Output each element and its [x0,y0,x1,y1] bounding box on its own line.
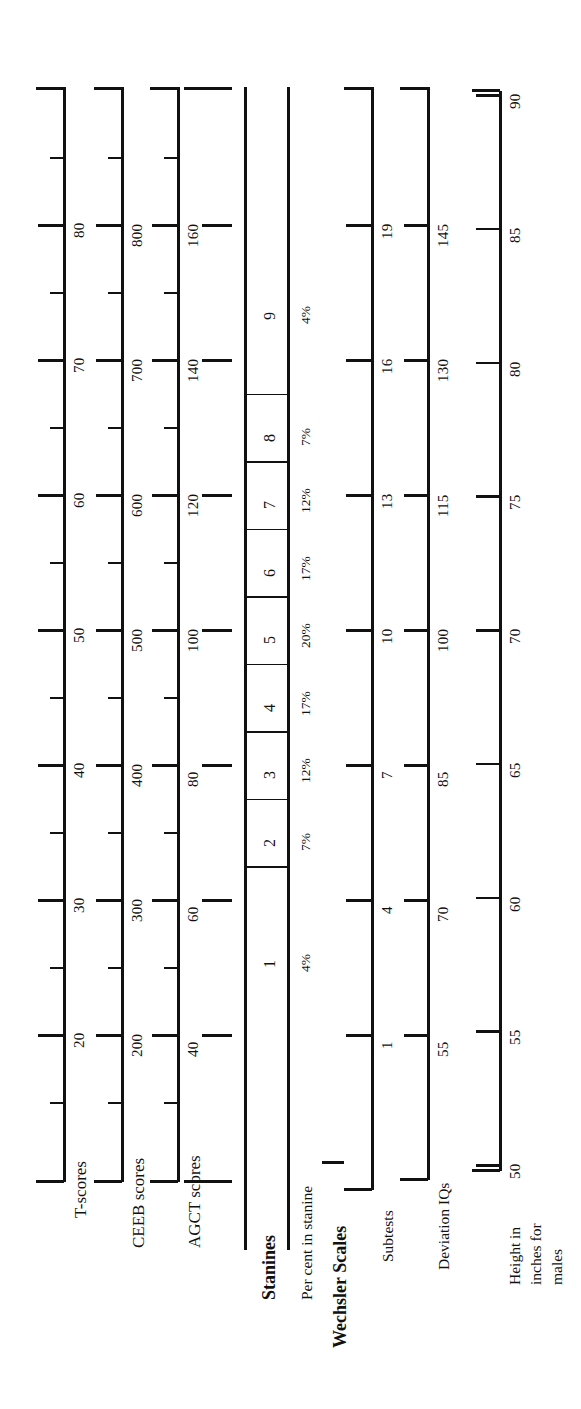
agct-scores-tick-label: 160 [185,224,202,247]
subtests-tick-label: 19 [379,224,396,239]
t-scores-axis-line [63,87,66,1182]
scale-label-t-scores: T-scores [71,1161,91,1218]
agct-scores-bottom-cap [150,1180,178,1183]
ceeb-scores-tick-major [96,224,122,227]
t-scores-tick-label: 70 [71,358,88,373]
height-tick-major [476,94,500,97]
ceeb-scores-tick-major [96,1034,122,1037]
agct-scores-axis-line [177,87,180,1182]
connector-tick [202,629,232,632]
deviation-iqs-tick-major [404,1034,428,1037]
ceeb-scores-tick-minor [108,1102,122,1104]
stanine-number: 4 [261,704,279,712]
connector-tick [202,359,232,362]
subtests-tick-label: 7 [379,771,396,779]
percent-in-stanine-label: 20% [298,623,314,648]
subtests-axis-line [371,87,374,1190]
subtests-tick-label: 1 [379,1041,396,1049]
subtests-tick-label: 10 [379,629,396,644]
t-scores-tick-minor [50,562,64,564]
subtests-tick-label: 13 [379,494,396,509]
stanine-divider [245,799,288,801]
height-tick-major [476,495,500,498]
scale-label-percent-in-stanine: Per cent in stanine [298,1186,316,1300]
height-tick-major [476,897,500,900]
agct-scores-tick-major [152,224,178,227]
agct-scores-tick-label: 140 [185,359,202,382]
ceeb-scores-bottom-cap [94,1180,122,1183]
t-scores-tick-label: 40 [71,763,88,778]
deviation-iqs-tick-label: 115 [435,494,452,517]
ceeb-scores-tick-minor [108,292,122,294]
ceeb-scores-tick-minor [108,562,122,564]
stanine-divider [245,529,288,531]
connector-bottom-cap [184,1180,232,1183]
agct-scores-top-cap [150,87,178,90]
agct-scores-tick-label: 80 [185,772,202,787]
ceeb-scores-tick-minor [108,157,122,159]
agct-scores-tick-major [152,1034,178,1037]
t-scores-tick-minor [50,967,64,969]
height-tick-label: 85 [507,227,524,242]
height-tick-label: 80 [507,361,524,376]
t-scores-tick-major [38,899,64,902]
connector-tick [202,1034,232,1037]
height-tick-label: 70 [507,629,524,644]
figure-canvas: 20304050607080T-scores200300400500600700… [0,0,581,1409]
percent-in-stanine-label: 12% [298,488,314,513]
deviation-iqs-tick-major [404,494,428,497]
stanine-divider [245,596,288,598]
agct-scores-tick-major [152,899,178,902]
agct-scores-tick-minor [164,697,178,699]
deviation-iqs-tick-label: 100 [435,629,452,652]
subtests-tick-major [346,629,372,632]
deviation-iqs-tick-major [404,359,428,362]
height-tick-label: 60 [507,896,524,911]
subtests-tick-major [346,494,372,497]
agct-scores-tick-minor [164,157,178,159]
stanine-divider [245,866,288,868]
agct-scores-tick-minor [164,427,178,429]
ceeb-scores-tick-label: 500 [129,629,146,652]
ceeb-scores-tick-minor [108,697,122,699]
connector-tick [202,899,232,902]
deviation-iqs-tick-label: 70 [435,907,452,922]
t-scores-tick-major [38,764,64,767]
t-scores-tick-minor [50,1102,64,1104]
subtests-tick-major [346,764,372,767]
t-scores-bottom-cap [36,1180,64,1183]
connector-top-cap [184,87,232,90]
stanine-number: 3 [261,771,279,779]
height-tick-label: 90 [507,94,524,109]
agct-scores-tick-label: 40 [185,1042,202,1057]
agct-scores-tick-label: 120 [185,494,202,517]
subtests-bottom-cap [344,1188,372,1191]
agct-scores-tick-minor [164,967,178,969]
percent-in-stanine-label: 7% [298,428,314,446]
scale-label-subtests: Subtests [379,1210,397,1262]
ceeb-scores-tick-minor [108,832,122,834]
deviation-iqs-top-cap [400,87,428,90]
wechsler-group-rule [322,1161,344,1164]
t-scores-tick-minor [50,427,64,429]
t-scores-tick-label: 20 [71,1033,88,1048]
agct-scores-tick-major [152,764,178,767]
t-scores-tick-major [38,224,64,227]
agct-scores-tick-major [152,629,178,632]
t-scores-tick-minor [50,292,64,294]
deviation-iqs-bottom-cap [400,1178,428,1181]
scale-label-stanines: Stanines [259,1235,280,1300]
subtests-tick-major [346,1034,372,1037]
t-scores-tick-label: 30 [71,898,88,913]
agct-scores-tick-minor [164,562,178,564]
t-scores-tick-major [38,494,64,497]
ceeb-scores-tick-label: 700 [129,359,146,382]
agct-scores-tick-label: 60 [185,907,202,922]
t-scores-tick-major [38,629,64,632]
t-scores-tick-minor [50,157,64,159]
t-scores-tick-label: 50 [71,628,88,643]
ceeb-scores-tick-major [96,494,122,497]
stanine-divider [245,394,288,396]
stanine-number: 9 [261,312,279,320]
subtests-tick-major [346,899,372,902]
